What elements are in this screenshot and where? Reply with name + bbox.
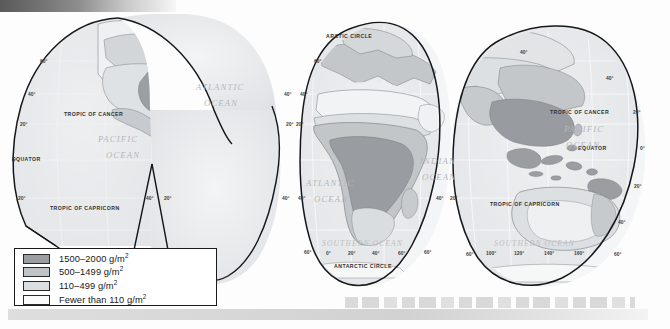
svg-text:20°: 20° [634,184,641,189]
legend-item: Fewer than 110 g/m2 [23,293,216,307]
label-tropic-cancer-west: TROPIC OF CANCER [64,111,123,117]
label-atlantic-west-2: OCEAN [204,98,238,108]
label-antarctic-circle: ANTARCTIC CIRCLE [334,263,392,269]
page-top-shadow-bar [0,0,176,12]
label-equator-west: EQUATOR [12,156,41,162]
label-southern-east: SOUTHERN OCEAN [494,239,575,248]
label-arctic-circle: ARCTIC CIRCLE [326,33,372,39]
svg-text:40°: 40° [284,92,291,97]
legend-item: 500–1499 g/m2 [23,266,216,280]
page-bottom-bar [8,309,648,320]
svg-text:40°: 40° [436,196,443,201]
legend-item: 1500–2000 g/m2 [23,252,216,266]
svg-text:20°: 20° [633,110,640,115]
label-pacific-east-1: PACIFIC [563,124,604,134]
page-ghost-text [345,297,635,308]
svg-text:60°: 60° [398,251,405,256]
svg-text:20°: 20° [450,196,457,201]
svg-text:40°: 40° [298,196,305,201]
svg-text:20°: 20° [286,122,293,127]
svg-text:40°: 40° [618,220,625,225]
label-indian-2: OCEAN [422,172,456,182]
svg-text:20°: 20° [296,122,303,127]
label-atlantic-central-2: OCEAN [314,194,348,204]
legend-label-1500-2000: 1500–2000 g/m2 [59,254,129,264]
svg-text:120°: 120° [514,251,524,256]
svg-text:40°: 40° [282,196,289,201]
svg-text:60°: 60° [40,59,47,64]
svg-text:40°: 40° [606,76,613,81]
svg-text:40°: 40° [520,50,527,55]
svg-text:0°: 0° [326,251,331,256]
svg-text:60°: 60° [466,252,473,257]
svg-text:60°: 60° [614,252,621,257]
label-atlantic-west-1: ATLANTIC [195,82,244,92]
svg-text:20°: 20° [164,196,171,201]
legend-swatch-fewer-110 [23,295,50,305]
legend-item: 110–499 g/m2 [23,279,216,293]
svg-text:60°: 60° [424,250,431,255]
label-pacific-west-1: PACIFIC [97,134,138,144]
svg-text:20°: 20° [20,122,27,127]
legend-label-500-1499: 500–1499 g/m2 [59,267,123,277]
svg-text:140°: 140° [544,251,554,256]
svg-text:160°: 160° [574,251,584,256]
svg-text:60°: 60° [314,59,321,64]
legend-label-fewer-110: Fewer than 110 g/m2 [59,295,146,305]
label-tropic-capricorn-west: TROPIC OF CAPRICORN [50,205,120,211]
svg-text:60°: 60° [304,250,311,255]
svg-text:20°: 20° [348,251,355,256]
svg-text:40°: 40° [28,92,35,97]
label-indian-1: INDIAN [419,156,456,166]
region-eastern-usa [139,70,208,115]
label-atlantic-central-1: ATLANTIC [305,178,354,188]
svg-text:40°: 40° [146,196,153,201]
label-pacific-west-2: OCEAN [106,150,140,160]
map-legend: 1500–2000 g/m2 500–1499 g/m2 110–499 g/m… [14,248,217,306]
svg-text:20°: 20° [18,196,25,201]
legend-swatch-110-499 [23,281,50,291]
svg-text:0°: 0° [640,146,645,151]
svg-text:40°: 40° [372,251,379,256]
lobe-asia-australia [440,14,670,292]
legend-swatch-1500-2000 [23,254,50,264]
legend-label-110-499: 110–499 g/m2 [59,281,117,291]
label-tropic-cancer-east: TROPIC OF CANCER [550,109,609,115]
label-southern-central: SOUTHERN OCEAN [322,239,403,248]
svg-text:100°: 100° [486,251,496,256]
label-pacific-east-2: OCEAN [566,140,600,150]
map-page: 60° 40° 20° 0° 20° 40° 20° 60° 40° 20° 4… [0,0,670,329]
legend-swatch-500-1499 [23,267,50,277]
svg-text:40°: 40° [300,92,307,97]
label-tropic-capricorn-east: TROPIC OF CAPRICORN [490,201,560,207]
